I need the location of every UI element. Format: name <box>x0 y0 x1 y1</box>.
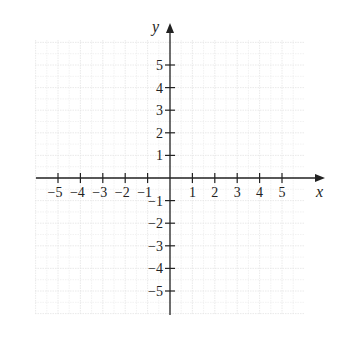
y-tick-label: 3 <box>156 103 163 118</box>
coordinate-plane: −5−4−3−2−112345−5−4−3−2−112345 x y <box>0 0 349 338</box>
y-tick-label: 4 <box>156 81 163 96</box>
y-axis-label: y <box>150 18 160 36</box>
y-tick-label: 5 <box>156 58 163 73</box>
x-tick-label: 5 <box>279 185 286 200</box>
x-tick-label: −2 <box>115 185 130 200</box>
y-tick-label: 2 <box>156 126 163 141</box>
y-tick-label: −5 <box>148 284 163 299</box>
x-tick-label: −5 <box>48 185 63 200</box>
x-tick-label: 4 <box>256 185 263 200</box>
x-tick-label: 1 <box>189 185 196 200</box>
x-tick-label: −3 <box>92 185 107 200</box>
x-tick-label: 3 <box>234 185 241 200</box>
x-tick-label: −4 <box>70 185 85 200</box>
y-tick-label: −1 <box>148 194 163 209</box>
x-tick-label: 2 <box>211 185 218 200</box>
x-axis-label: x <box>315 183 323 200</box>
y-tick-label: −4 <box>148 261 163 276</box>
y-tick-label: −3 <box>148 239 163 254</box>
y-tick-label: 1 <box>156 148 163 163</box>
y-tick-label: −2 <box>148 216 163 231</box>
x-axis-arrow-icon <box>315 174 325 182</box>
y-axis-arrow-icon <box>166 23 174 33</box>
